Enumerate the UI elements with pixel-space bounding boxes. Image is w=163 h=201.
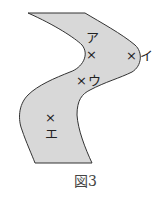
river-shape bbox=[20, 13, 141, 163]
marker-i: × bbox=[126, 49, 137, 62]
label-u: ウ bbox=[88, 74, 101, 87]
marker-e: × bbox=[45, 111, 56, 124]
label-e: エ bbox=[45, 127, 58, 140]
marker-a: × bbox=[86, 48, 97, 61]
figure-caption: 図3 bbox=[74, 170, 97, 190]
label-i: イ bbox=[140, 49, 153, 62]
marker-u: × bbox=[76, 74, 87, 87]
label-a: ア bbox=[86, 31, 99, 44]
